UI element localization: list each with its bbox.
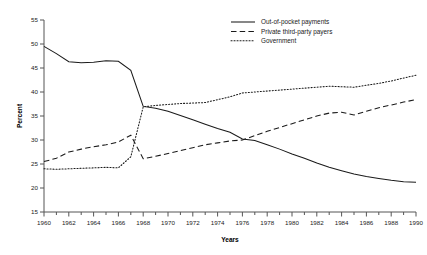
legend-label: Government — [261, 37, 296, 44]
y-axis-title: Percent — [16, 103, 23, 128]
x-axis-tick-label: 1982 — [310, 219, 324, 226]
x-axis-tick-label: 1988 — [384, 219, 398, 226]
x-axis-tick-label: 1970 — [161, 219, 175, 226]
x-axis-tick-label: 1978 — [260, 219, 274, 226]
legend-label: Private third-party payers — [261, 28, 332, 36]
y-axis-tick-label: 30 — [31, 136, 38, 143]
line-chart: 152025303540455055Percent196019621964196… — [0, 0, 427, 255]
x-axis-tick-label: 1976 — [236, 219, 250, 226]
y-axis-tick-label: 45 — [31, 64, 38, 71]
x-axis-tick-label: 1980 — [285, 219, 299, 226]
y-axis-tick-label: 15 — [31, 208, 38, 215]
x-axis-tick-label: 1984 — [335, 219, 349, 226]
x-axis-tick-label: 1972 — [186, 219, 200, 226]
y-axis-tick-label: 40 — [31, 88, 38, 95]
series-line-dotted — [44, 75, 416, 169]
x-axis-tick-label: 1960 — [37, 219, 51, 226]
x-axis-tick-label: 1974 — [211, 219, 225, 226]
x-axis-tick-label: 1990 — [409, 219, 423, 226]
y-axis-tick-label: 50 — [31, 40, 38, 47]
x-axis-tick-label: 1964 — [87, 219, 101, 226]
x-axis-tick-label: 1962 — [62, 219, 76, 226]
y-axis-tick-label: 20 — [31, 184, 38, 191]
series-line-dashed — [44, 100, 416, 162]
x-axis-tick-label: 1968 — [136, 219, 150, 226]
y-axis-tick-label: 35 — [31, 112, 38, 119]
x-axis-title: Years — [221, 236, 239, 243]
x-axis-tick-label: 1966 — [112, 219, 126, 226]
x-axis-tick-label: 1986 — [360, 219, 374, 226]
series-line-solid — [44, 46, 416, 182]
y-axis-tick-label: 55 — [31, 16, 38, 23]
chart-container: 152025303540455055Percent196019621964196… — [0, 0, 427, 255]
legend-label: Out-of-pocket payments — [261, 18, 329, 26]
y-axis-tick-label: 25 — [31, 160, 38, 167]
